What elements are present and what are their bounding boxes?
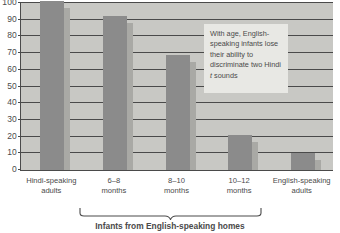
- annotation-callout: With age, English- speaking infants lose…: [204, 24, 288, 93]
- x-tick-label-line2: months: [208, 186, 271, 196]
- y-tick-label: 60: [0, 65, 17, 74]
- x-tick-label: 6–8months: [83, 176, 146, 196]
- bar-chart-figure: 0102030405060708090100 With age, English…: [0, 0, 340, 233]
- y-tick-label: 80: [0, 31, 17, 40]
- x-tick-label-line1: English-speaking: [273, 176, 331, 185]
- x-tick-label-line1: Hindi-speaking: [26, 176, 76, 185]
- x-tick-label-line2: months: [83, 186, 146, 196]
- x-tick-label-line2: adults: [270, 186, 333, 196]
- bar-2[interactable]: [166, 55, 190, 170]
- x-tick-label-line1: 8–10: [168, 176, 185, 185]
- x-axis: Hindi-speakingadults6–8months8–10months1…: [20, 176, 333, 202]
- y-tick-label: 70: [0, 48, 17, 57]
- callout-line-5: sounds: [212, 71, 238, 80]
- y-tick-mark: [18, 52, 21, 53]
- y-tick-label: 50: [0, 82, 17, 91]
- group-brace-icon: [79, 208, 262, 220]
- bar-0[interactable]: [40, 1, 64, 170]
- x-tick-label-line1: 10–12: [229, 176, 250, 185]
- y-tick-label: 10: [0, 148, 17, 157]
- y-tick-mark: [18, 169, 21, 170]
- y-tick-mark: [18, 19, 21, 20]
- y-tick-mark: [18, 2, 21, 3]
- callout-line-1: With age, English-: [210, 29, 269, 38]
- y-tick-mark: [18, 152, 21, 153]
- bar-3[interactable]: [228, 135, 252, 170]
- x-tick-label-line2: months: [145, 186, 208, 196]
- x-tick-label: English-speakingadults: [270, 176, 333, 196]
- y-tick-label: 40: [0, 98, 17, 107]
- bar-shadow: [190, 62, 196, 170]
- y-tick-label: 20: [0, 132, 17, 141]
- y-tick-mark: [18, 35, 21, 36]
- y-tick-mark: [18, 136, 21, 137]
- y-tick-label: 100: [0, 0, 17, 7]
- bar-shadow: [64, 8, 70, 170]
- gridline: [21, 2, 333, 3]
- y-tick-label: 30: [0, 115, 17, 124]
- y-tick-mark: [18, 119, 21, 120]
- bar-shadow: [315, 160, 321, 170]
- x-tick-label: Hindi-speakingadults: [20, 176, 83, 196]
- y-tick-label: 0: [0, 165, 17, 174]
- y-tick-mark: [18, 69, 21, 70]
- x-tick-label-line1: 6–8: [108, 176, 121, 185]
- y-tick-mark: [18, 102, 21, 103]
- bar-shadow: [252, 142, 258, 170]
- x-tick-label: 8–10months: [145, 176, 208, 196]
- callout-line-4: discriminate two Hindi: [210, 60, 281, 69]
- callout-line-2: speaking infants lose: [210, 39, 278, 48]
- y-tick-label: 90: [0, 15, 17, 24]
- chart-caption: Infants from English-speaking homes: [0, 221, 340, 232]
- bar-4[interactable]: [291, 153, 315, 170]
- bar-1[interactable]: [103, 16, 127, 170]
- y-tick-mark: [18, 86, 21, 87]
- callout-line-3: their ability to: [210, 50, 253, 59]
- x-tick-label: 10–12months: [208, 176, 271, 196]
- x-tick-label-line2: adults: [20, 186, 83, 196]
- bar-shadow: [127, 23, 133, 170]
